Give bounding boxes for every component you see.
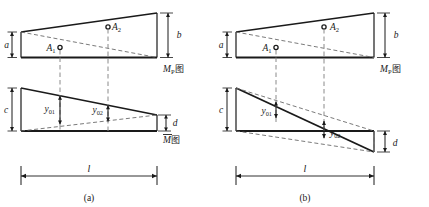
span-label-b: l: [304, 163, 307, 174]
mp-diagram-label-b: MP图: [379, 64, 401, 75]
dimension-d-panel-b: [377, 131, 390, 152]
mbar-diagram-a: [21, 88, 157, 131]
dimension-b-label-panel-b: b: [394, 30, 399, 40]
ordinate-y01-label-b: y01: [260, 106, 272, 117]
mp-top-chord-a: [21, 13, 157, 32]
centroid-b1-label: A1: [261, 43, 271, 54]
dimension-a-panel-a: [8, 32, 18, 58]
mp-diagonal-upper-a: [21, 32, 157, 58]
mbar-diagonal-a: [21, 115, 157, 131]
dimension-c-label-panel-b: c: [219, 105, 224, 115]
mp-diagram-b: [236, 13, 374, 58]
moment-diagram-figure: A1 A2 a b MP图: [0, 0, 429, 207]
centroid-a1-label: A1: [45, 43, 55, 54]
svg-text:M图: M图: [162, 135, 180, 145]
ordinate-y02-label-a: y02: [91, 105, 103, 116]
dimension-c-panel-b: [223, 88, 233, 131]
mbar-sloping-chord-b: [236, 88, 374, 152]
mbar-dashed-upper-b: [236, 88, 374, 131]
mp-diagram-a: [21, 13, 157, 58]
mp-diagram-label-a: MP图: [162, 64, 184, 75]
centroid-a1-marker: [58, 45, 62, 49]
centroid-b2-marker: [322, 25, 326, 29]
ordinate-y01-label-a: y01: [43, 104, 55, 115]
dimension-a-panel-b: [223, 32, 233, 58]
centroid-b2-label: A2: [329, 22, 339, 33]
centroid-a2-marker: [106, 25, 110, 29]
dimension-a-label-panel-a: a: [4, 40, 9, 50]
mp-top-chord-b: [236, 13, 374, 32]
mp-diagonal-b: [236, 32, 374, 58]
mbar-diagram-label-a: M图: [162, 135, 180, 146]
centroid-b1-marker: [274, 45, 278, 49]
dimension-b-panel-b: [377, 13, 390, 58]
mbar-diagram-b: [236, 88, 374, 152]
ordinate-y02-label-b: y02: [329, 128, 341, 139]
centroid-a2-label: A2: [111, 22, 121, 33]
dimension-d-panel-a: [158, 115, 171, 131]
dimension-c-label-panel-a: c: [4, 105, 9, 115]
dimension-c-panel-a: [8, 88, 18, 131]
panel-caption-a: (a): [84, 193, 95, 204]
dimension-b-label-panel-a: b: [177, 30, 182, 40]
ordinate-arrows-b: [274, 102, 326, 139]
panel-b: A1 A2 a b MP图: [214, 0, 429, 207]
span-label-a: l: [88, 163, 91, 174]
mbar-top-chord-a: [21, 88, 157, 115]
dimension-b-panel-a: [160, 13, 173, 58]
dimension-d-label-panel-a: d: [173, 118, 178, 128]
projection-lines-b: [276, 29, 324, 140]
panel-caption-b: (b): [299, 193, 310, 204]
panel-a: A1 A2 a b MP图: [0, 0, 214, 207]
dimension-d-label-panel-b: d: [393, 138, 398, 148]
dimension-a-label-panel-b: a: [219, 40, 224, 50]
